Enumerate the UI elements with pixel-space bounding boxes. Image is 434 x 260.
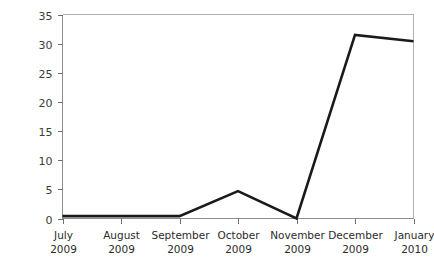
line-chart: 05101520253035 July2009August2009Septemb… bbox=[0, 0, 434, 260]
y-tick-label: 15 bbox=[39, 126, 53, 139]
y-tick-labels: 05101520253035 bbox=[39, 10, 53, 227]
y-tick-label: 25 bbox=[39, 68, 53, 81]
x-tick-label: September2009 bbox=[151, 229, 210, 255]
x-tick-label: October2009 bbox=[217, 229, 260, 255]
chart-canvas: 05101520253035 July2009August2009Septemb… bbox=[0, 0, 434, 260]
y-tick-label: 20 bbox=[39, 97, 53, 110]
x-tick-labels: July2009August2009September2009October20… bbox=[50, 229, 434, 255]
data-series-line bbox=[63, 35, 414, 219]
x-tick-label: August2009 bbox=[103, 229, 140, 255]
y-tick-label: 35 bbox=[39, 10, 53, 23]
x-tick-label: January2010 bbox=[394, 229, 434, 255]
y-tick-label: 0 bbox=[46, 214, 53, 227]
y-tick-label: 5 bbox=[46, 184, 53, 197]
x-tick-label: December2009 bbox=[328, 229, 383, 255]
plot-frame bbox=[63, 15, 414, 219]
y-tick-label: 30 bbox=[39, 39, 53, 52]
x-tick-marks bbox=[64, 219, 415, 224]
y-tick-marks bbox=[58, 16, 63, 220]
y-tick-label: 10 bbox=[39, 155, 53, 168]
x-tick-label: July2009 bbox=[50, 229, 77, 255]
x-tick-label: November2009 bbox=[270, 229, 325, 255]
